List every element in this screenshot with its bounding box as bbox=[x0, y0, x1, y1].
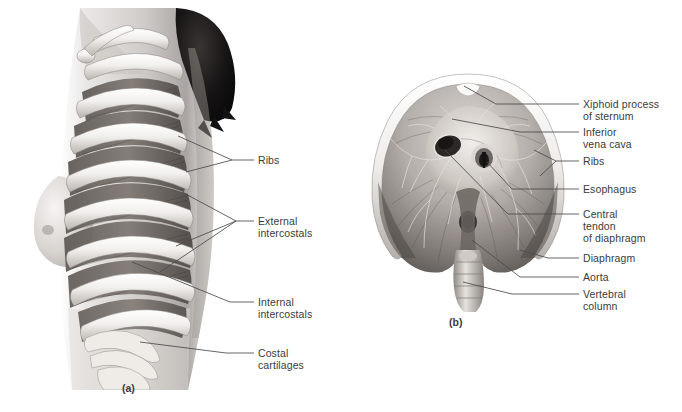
label-costal-cartilages: Costal cartilages bbox=[258, 347, 304, 371]
label-diaphragm: Diaphragm bbox=[583, 252, 635, 264]
label-central-tendon: Central tendon of diaphragm bbox=[583, 208, 646, 245]
label-inferior-vena-cava: Inferior vena cava bbox=[583, 126, 632, 150]
label-external-intercostals: External intercostals bbox=[258, 215, 312, 239]
panel-a-illustration bbox=[28, 8, 243, 390]
label-internal-intercostals: Internal intercostals bbox=[258, 296, 312, 320]
label-ribs: Ribs bbox=[258, 154, 279, 166]
label-esophagus: Esophagus bbox=[583, 183, 636, 195]
label-xiphoid-process: Xiphoid process of sternum bbox=[583, 98, 659, 122]
vertebral-column-art bbox=[453, 250, 484, 312]
panel-b-illustration bbox=[368, 72, 568, 312]
label-aorta: Aorta bbox=[583, 271, 609, 283]
label-ribs-b: Ribs bbox=[583, 155, 604, 167]
caption-panel-b: (b) bbox=[449, 316, 462, 328]
caption-panel-a: (a) bbox=[122, 382, 135, 394]
anatomy-figure: Ribs External intercostals Internal inte… bbox=[0, 0, 682, 412]
esophageal-hiatus bbox=[471, 144, 497, 172]
label-vertebral-column: Vertebral column bbox=[583, 288, 626, 312]
